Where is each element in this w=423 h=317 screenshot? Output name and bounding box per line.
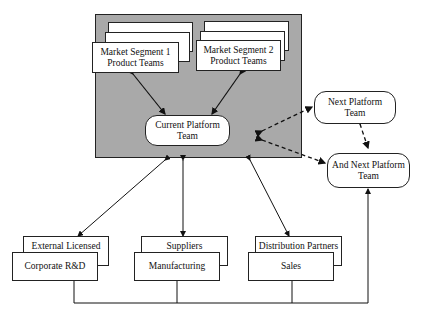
manufacturing-label: Manufacturing (149, 261, 205, 272)
sales-label: Sales (281, 261, 301, 272)
and-next-platform-line2: Team (358, 171, 379, 182)
current-platform-node: Current Platform Team (145, 115, 230, 146)
segment1-line2: Product Teams (107, 58, 163, 69)
market-segment-1-node: Market Segment 1 Product Teams (92, 42, 179, 73)
current-platform-line1: Current Platform (155, 120, 220, 131)
next-platform-line2: Team (345, 108, 366, 119)
and-next-platform-line1: And Next Platform (332, 160, 405, 171)
suppliers-label: Suppliers (167, 241, 203, 252)
market-segment-2-node: Market Segment 2 Product Teams (196, 40, 281, 71)
segment2-line1: Market Segment 2 (203, 45, 273, 56)
and-next-platform-node: And Next Platform Team (327, 153, 410, 188)
sales-node: Sales (248, 252, 334, 281)
next-platform-node: Next Platform Team (314, 91, 396, 124)
distribution-partners-label: Distribution Partners (259, 241, 338, 252)
segment1-line1: Market Segment 1 (100, 47, 170, 58)
next-platform-line1: Next Platform (328, 97, 382, 108)
corporate-rd-node: Corporate R&D (12, 252, 98, 281)
current-platform-line2: Team (177, 131, 198, 142)
segment2-line2: Product Teams (210, 56, 266, 67)
manufacturing-node: Manufacturing (134, 252, 220, 281)
corporate-rd-label: Corporate R&D (25, 261, 86, 272)
